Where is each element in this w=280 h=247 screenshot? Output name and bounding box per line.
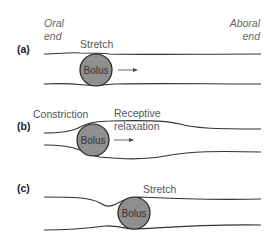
peristalsis-diagram: Oral end Aboral end (a) Stretch Bolus (b… bbox=[0, 0, 280, 247]
oral-end-label-2: end bbox=[44, 30, 63, 42]
oral-end-label-1: Oral bbox=[44, 17, 65, 29]
tube-wall-bottom-b bbox=[44, 145, 261, 159]
tube-wall-top-c bbox=[44, 197, 261, 206]
arrowhead-icon bbox=[133, 68, 138, 72]
bolus-label-c: Bolus bbox=[121, 208, 146, 219]
arrowhead-icon bbox=[129, 138, 134, 142]
panel-c-label: (c) bbox=[17, 182, 30, 194]
panel-a: (a) Stretch Bolus bbox=[17, 38, 261, 86]
aboral-end-label-1: Aboral bbox=[229, 17, 261, 29]
bolus-label-a: Bolus bbox=[83, 65, 108, 76]
bolus-label-b: Bolus bbox=[80, 135, 105, 146]
stretch-label-c: Stretch bbox=[143, 183, 176, 195]
tube-wall-bottom-a bbox=[44, 84, 261, 86]
stretch-label-a: Stretch bbox=[80, 38, 113, 50]
aboral-end-label-2: end bbox=[242, 30, 261, 42]
tube-wall-bottom-c bbox=[44, 225, 261, 230]
tube-wall-top-a bbox=[44, 53, 261, 55]
receptive-label: Receptive bbox=[114, 107, 161, 119]
panel-b-label: (b) bbox=[17, 120, 30, 132]
panel-a-label: (a) bbox=[17, 43, 30, 55]
constriction-label: Constriction bbox=[33, 108, 89, 120]
panel-b: (b) Constriction Receptive relaxation Bo… bbox=[17, 107, 261, 159]
relaxation-label: relaxation bbox=[114, 120, 160, 132]
panel-c: (c) Stretch Bolus bbox=[17, 182, 261, 230]
